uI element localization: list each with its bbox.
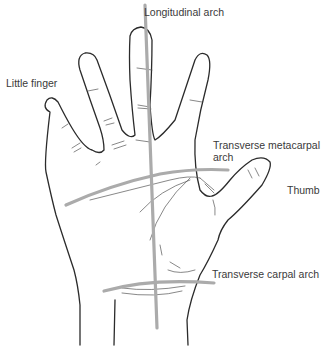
- wrist-left-edge: [114, 300, 115, 345]
- label-little-finger: Little finger: [6, 77, 57, 89]
- label-transverse-carpal-arch: Transverse carpal arch: [212, 268, 319, 280]
- little-finger-outline: [45, 27, 270, 345]
- transverse-carpal-arch-line: [104, 282, 214, 291]
- longitudinal-arch-line: [145, 5, 157, 328]
- label-transverse-metacarpal-arch-1: Transverse metacarpal: [213, 139, 320, 151]
- hand-outline: [45, 27, 270, 345]
- label-transverse-metacarpal-arch-2: arch: [213, 151, 233, 163]
- hand-arches-diagram: [0, 0, 327, 353]
- label-longitudinal-arch: Longitudinal arch: [144, 6, 224, 18]
- label-thumb: Thumb: [287, 184, 320, 196]
